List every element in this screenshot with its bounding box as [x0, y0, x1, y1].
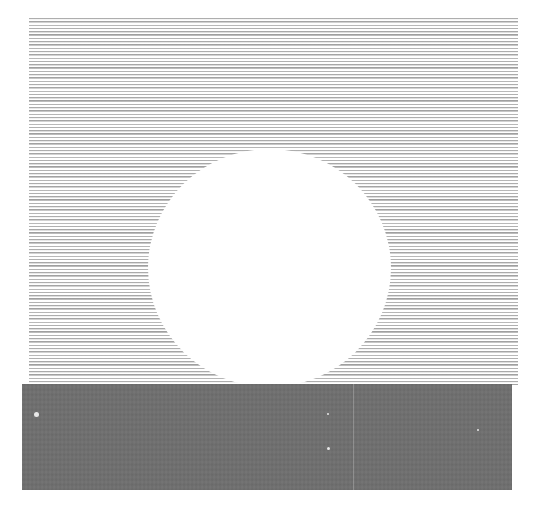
dust-speck	[327, 447, 330, 450]
dust-speck	[477, 429, 479, 431]
artwork-canvas	[0, 0, 534, 507]
gray-rectangle	[22, 384, 512, 490]
scan-scratch-line	[353, 384, 354, 490]
dust-speck	[327, 413, 329, 415]
dust-speck	[34, 412, 39, 417]
white-circle	[148, 149, 391, 387]
